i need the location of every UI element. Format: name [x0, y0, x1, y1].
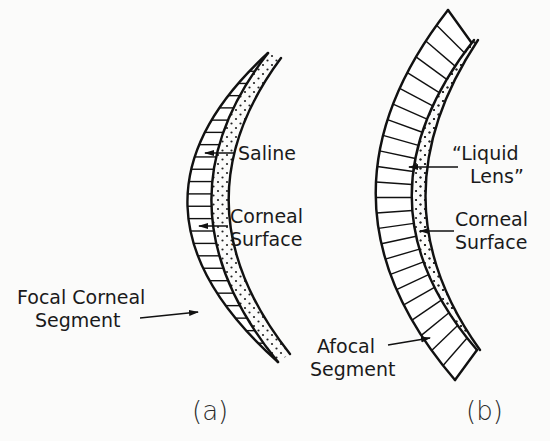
- label-corneal-a: Corneal: [230, 205, 303, 227]
- label-surface-a: Surface: [230, 228, 302, 250]
- afocal-segment-leader-arrow: [388, 338, 430, 345]
- label-focal-corneal: Focal Corneal: [17, 286, 145, 308]
- panel-b: “Liquid Lens” Corneal Surface Afocal Seg…: [310, 10, 528, 426]
- contact-lens-diagram: Saline Corneal Surface Focal Corneal Seg…: [0, 0, 550, 441]
- caption-b: (b): [466, 396, 503, 426]
- label-lens: Lens”: [470, 165, 524, 187]
- focal-segment-leader-arrow: [140, 312, 198, 318]
- label-liquid: “Liquid: [452, 142, 519, 164]
- label-corneal-b: Corneal: [455, 208, 528, 230]
- label-surface-b: Surface: [455, 231, 527, 253]
- label-afocal: Afocal: [317, 335, 375, 357]
- panel-a: Saline Corneal Surface Focal Corneal Seg…: [17, 53, 303, 426]
- label-segment-a: Segment: [35, 309, 121, 331]
- caption-a: (a): [192, 396, 228, 426]
- label-segment-b: Segment: [310, 358, 396, 380]
- label-saline: Saline: [238, 142, 296, 164]
